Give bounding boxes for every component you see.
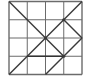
grid-diagram: [0, 0, 86, 84]
diagonal-segment: [64, 20, 82, 38]
node-point: [44, 36, 47, 39]
node-point: [62, 55, 65, 58]
node-point: [62, 18, 65, 21]
